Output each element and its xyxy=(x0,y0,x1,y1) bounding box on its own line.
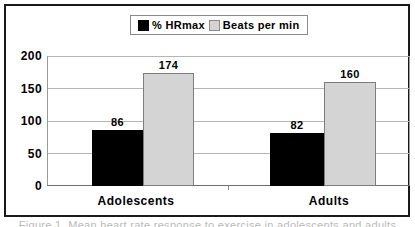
y-tick-label-50: 50 xyxy=(8,147,42,161)
figure-caption: Figure 1. Mean heart rate response to ex… xyxy=(0,219,415,227)
bar-adults-bpm[interactable] xyxy=(324,82,376,186)
figure-container: % HRmax Beats per min 200 150 100 50 0 xyxy=(0,0,415,227)
chart-legend: % HRmax Beats per min xyxy=(130,15,308,35)
dark-swatch-icon xyxy=(138,20,149,31)
y-tick-label-100: 100 xyxy=(8,114,42,128)
bar-adolescents-hrmax[interactable] xyxy=(92,130,143,186)
bar-value-adolescents-hrmax: 86 xyxy=(92,116,143,128)
legend-entry-hrmax[interactable]: % HRmax xyxy=(138,19,205,31)
y-tick-label-200: 200 xyxy=(8,49,42,63)
plot-right-edge xyxy=(409,56,410,186)
y-axis-tick-labels: 200 150 100 50 0 xyxy=(6,56,42,186)
x-category-label-adolescents: Adolescents xyxy=(61,194,211,208)
chart-frame: % HRmax Beats per min 200 150 100 50 0 xyxy=(4,4,410,217)
bar-value-adolescents-bpm: 174 xyxy=(143,59,194,71)
x-category-label-adults: Adults xyxy=(254,194,404,208)
bar-adolescents-bpm[interactable] xyxy=(143,73,194,186)
y-axis-line xyxy=(47,56,48,186)
bar-value-adults-hrmax: 82 xyxy=(270,119,324,131)
legend-label-hrmax: % HRmax xyxy=(152,19,205,31)
bar-adults-hrmax[interactable] xyxy=(270,133,324,186)
legend-label-bpm: Beats per min xyxy=(223,19,300,31)
x-axis-category-divider xyxy=(228,185,229,190)
y-tick-label-0: 0 xyxy=(8,179,42,193)
legend-entry-bpm[interactable]: Beats per min xyxy=(209,19,300,31)
gridline-200 xyxy=(47,56,410,57)
y-tick-label-150: 150 xyxy=(8,82,42,96)
light-swatch-icon xyxy=(209,20,220,31)
plot-area: 86 174 82 160 xyxy=(47,56,410,186)
bar-value-adults-bpm: 160 xyxy=(324,68,376,80)
